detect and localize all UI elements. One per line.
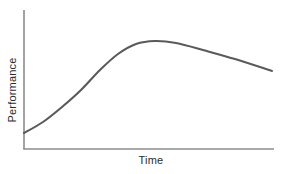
performance-time-chart: Performance Time — [0, 0, 291, 174]
y-axis-label: Performance — [6, 57, 18, 122]
x-axis-label: Time — [139, 154, 164, 166]
chart-canvas — [0, 0, 291, 174]
performance-curve-line — [24, 41, 272, 133]
